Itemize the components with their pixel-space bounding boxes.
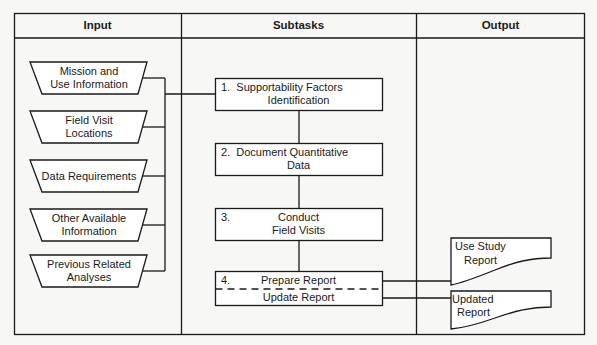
subtask-4-line1: Prepare Report [215, 274, 382, 287]
input-field-visit-line2: Locations [36, 127, 142, 140]
output-updated-line1: Updated [452, 293, 494, 306]
subtask-1: 1. Supportability Factors [221, 81, 343, 94]
input-previous-line1: Previous Related [36, 258, 142, 271]
subtask-1-line1: Supportability Factors [236, 81, 342, 93]
subtask-2-num: 2. [221, 146, 230, 158]
output-use-study-line2: Report [464, 254, 497, 267]
subtask-2-line1: Document Quantitative [236, 146, 348, 158]
input-data-requirements: Data Requirements [36, 170, 142, 183]
input-other-info-line2: Information [36, 225, 142, 238]
input-other-info: Other Available Information [36, 212, 142, 238]
header-input: Input [14, 17, 181, 33]
input-other-info-line1: Other Available [36, 212, 142, 225]
subtask-3-line2: Field Visits [215, 224, 382, 237]
subtask-3-line1: Conduct [215, 211, 382, 224]
input-field-visit: Field Visit Locations [36, 114, 142, 140]
input-previous: Previous Related Analyses [36, 258, 142, 284]
input-field-visit-line1: Field Visit [36, 114, 142, 127]
output-updated-line2: Report [457, 306, 490, 319]
input-mission-line1: Mission and [36, 65, 142, 78]
input-mission: Mission and Use Information [36, 65, 142, 91]
subtask-1-line2: Identification [215, 94, 382, 107]
output-use-study-line1: Use Study [455, 240, 506, 253]
input-mission-line2: Use Information [36, 78, 142, 91]
input-data-requirements-line1: Data Requirements [36, 170, 142, 183]
subtask-2-line2: Data [215, 159, 382, 172]
input-previous-line2: Analyses [36, 271, 142, 284]
header-output: Output [416, 17, 585, 33]
header-subtasks: Subtasks [181, 17, 416, 33]
subtask-2: 2. Document Quantitative [221, 146, 348, 159]
subtask-1-num: 1. [221, 81, 230, 93]
subtask-4-line2: Update Report [215, 291, 382, 304]
